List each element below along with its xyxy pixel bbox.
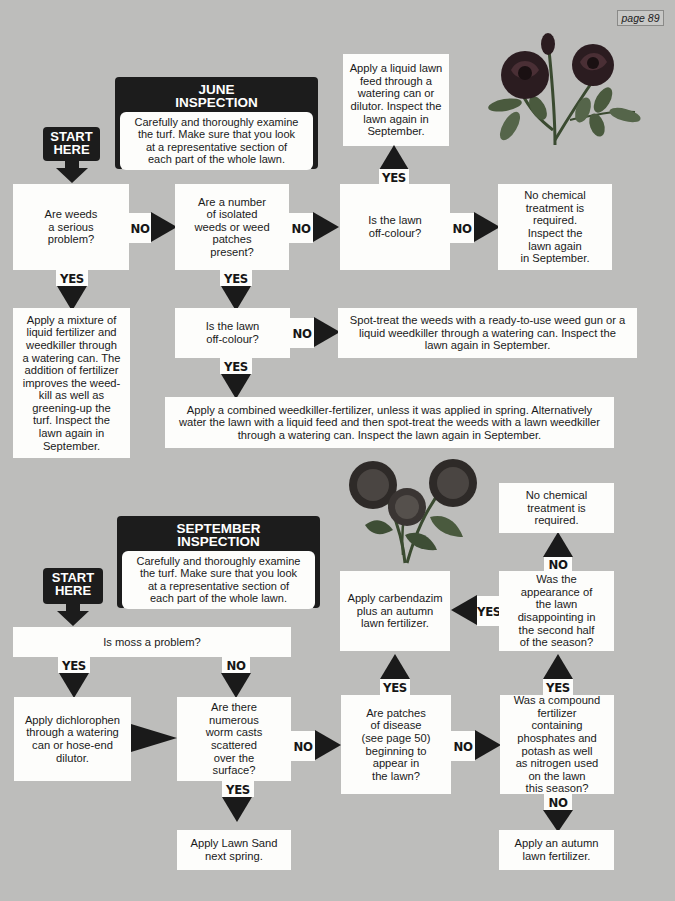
question-compound-fertilizer: Was a compound fertilizer containing pho… xyxy=(500,695,614,794)
arrow-right-icon xyxy=(314,317,340,347)
arrow-down-icon xyxy=(221,673,251,698)
arrow-up-icon xyxy=(379,145,409,170)
yes-label: YES xyxy=(379,169,409,185)
chrysanthemums-illustration xyxy=(345,455,485,565)
yes-label: YES xyxy=(220,358,252,374)
roses-illustration xyxy=(485,30,645,150)
june-start-here-badge: START HERE xyxy=(43,127,100,161)
no-label: NO xyxy=(544,556,572,572)
carbendazim-box: Apply carbendazim plus an autumn lawn fe… xyxy=(340,571,450,651)
question-disappointing: Was the appearance of the lawn disappoin… xyxy=(499,571,614,651)
arrow-right-icon xyxy=(151,212,177,242)
september-header-text: Carefully and thoroughly examine the tur… xyxy=(122,551,315,609)
no-label: NO xyxy=(450,213,474,243)
dichlorophen-box: Apply dichlorophen through a watering ca… xyxy=(14,697,131,781)
yes-label: YES xyxy=(56,270,88,286)
yes-label: YES xyxy=(220,270,252,286)
september-inspection-header: SEPTEMBER INSPECTION Carefully and thoro… xyxy=(117,516,320,608)
combined-weedkiller-box: Apply a combined weedkiller-fertilizer, … xyxy=(165,397,614,448)
yes-label: YES xyxy=(380,679,410,695)
no-chemical-june-box: No chemical treatment is required. Inspe… xyxy=(498,184,612,270)
yes-label: YES xyxy=(58,657,90,673)
no-label: NO xyxy=(451,731,475,761)
question-disease: Are patches of disease (see page 50) beg… xyxy=(341,695,451,794)
september-start-here-badge: START HERE xyxy=(43,568,103,604)
arrow-up-icon xyxy=(380,654,410,679)
no-label: NO xyxy=(222,657,250,673)
no-label: NO xyxy=(129,213,151,243)
arrow-right-icon xyxy=(315,730,341,760)
page-number-tag: page 89 xyxy=(617,10,664,26)
arrow-right-icon xyxy=(474,212,500,242)
yes-label: YES xyxy=(543,679,573,695)
autumn-fertilizer-box: Apply an autumn lawn fertilizer. xyxy=(499,830,614,870)
arrow-up-icon xyxy=(543,654,573,679)
arrow-down-icon xyxy=(222,797,252,822)
june-header-title: JUNE INSPECTION xyxy=(120,80,313,109)
arrow-right-icon xyxy=(475,730,501,760)
question-off-colour-1: Is the lawn off-colour? xyxy=(340,184,450,270)
no-label: NO xyxy=(291,731,315,761)
no-chemical-september-box: No chemical treatment is required. xyxy=(499,483,614,533)
question-weeds-serious: Are weeds a serious problem? xyxy=(13,184,129,270)
september-header-title: SEPTEMBER INSPECTION xyxy=(122,519,315,548)
arrow-left-icon xyxy=(451,595,477,625)
no-label: NO xyxy=(289,213,313,243)
start-arrow-icon xyxy=(55,160,89,184)
june-header-text: Carefully and thoroughly examine the tur… xyxy=(120,112,313,170)
question-isolated-weeds: Are a number of isolated weeds or weed p… xyxy=(175,184,289,270)
question-off-colour-2: Is the lawn off-colour? xyxy=(175,308,290,358)
june-inspection-header: JUNE INSPECTION Carefully and thoroughly… xyxy=(115,77,318,169)
start-arrow-icon xyxy=(56,603,90,627)
arrow-down-icon xyxy=(543,810,573,832)
no-label: NO xyxy=(290,318,314,348)
yes-label: YES xyxy=(477,596,501,626)
spot-treat-box: Spot-treat the weeds with a ready-to-use… xyxy=(338,308,637,358)
arrow-up-icon xyxy=(543,532,573,557)
arrow-down-icon xyxy=(221,374,251,399)
no-label: NO xyxy=(544,794,572,810)
lawn-sand-box: Apply Lawn Sand next spring. xyxy=(177,830,291,870)
arrow-down-icon xyxy=(59,673,89,698)
question-moss: Is moss a problem? xyxy=(13,627,291,657)
arrow-right-icon xyxy=(131,724,177,752)
yes-label: YES xyxy=(222,781,254,797)
mixture-box: Apply a mixture of liquid fertilizer and… xyxy=(13,308,130,458)
liquid-feed-box: Apply a liquid lawn feed through a water… xyxy=(343,54,449,146)
arrow-right-icon xyxy=(313,212,339,242)
question-worm-casts: Are there numerous worm casts scattered … xyxy=(177,697,291,781)
